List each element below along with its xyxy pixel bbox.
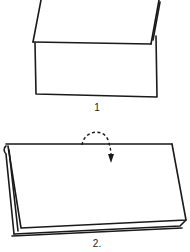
step-1-drawing — [33, 0, 160, 97]
step-1-lower-section — [35, 36, 157, 97]
step-1-crease — [33, 42, 151, 44]
step-2-drawing — [4, 144, 186, 236]
step-2-fold-spine — [4, 146, 14, 234]
step-1-upper-flap — [33, 0, 41, 42]
step-2-label: 2. — [82, 238, 112, 249]
folding-diagram: 1 2. — [0, 0, 190, 252]
dashed-curved-arrow-icon — [82, 132, 114, 163]
step-1-label: 1 — [82, 102, 112, 113]
step-2-front-panel — [8, 144, 186, 228]
